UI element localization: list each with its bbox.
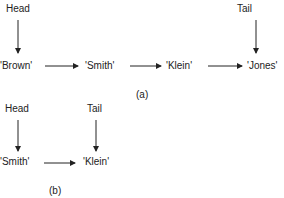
arrows-layer (0, 0, 284, 198)
